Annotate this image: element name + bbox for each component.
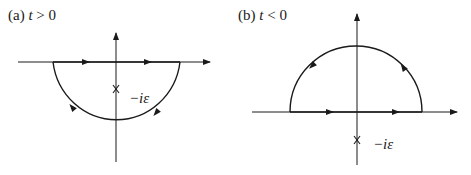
panel-b-prefix: (b): [238, 7, 256, 23]
panel-b-title: (b) t < 0: [238, 8, 287, 23]
contour-diagram: [0, 0, 471, 175]
arrow-arc-icon: [151, 108, 161, 118]
arrow-right-icon: [326, 109, 334, 115]
arrow-right-icon: [82, 59, 90, 65]
panel-a-var: t: [28, 7, 32, 23]
panel-b-var: t: [259, 7, 263, 23]
pole-label-b: −iε: [373, 137, 393, 152]
panel-a-val: 0: [49, 7, 57, 23]
arrow-right-icon: [392, 109, 400, 115]
panel-b: [252, 14, 457, 165]
panel-a-prefix: (a): [8, 7, 25, 23]
pole-label-a: −iε: [129, 91, 149, 106]
arrow-right-icon: [144, 59, 152, 65]
panel-a-op: >: [36, 7, 44, 23]
contour-arc-b: [290, 46, 422, 112]
panel-a-title: (a) t > 0: [8, 8, 56, 23]
panel-a: [18, 33, 210, 162]
arrow-arc-icon: [398, 62, 408, 72]
panel-b-op: <: [267, 7, 275, 23]
panel-b-val: 0: [279, 7, 287, 23]
